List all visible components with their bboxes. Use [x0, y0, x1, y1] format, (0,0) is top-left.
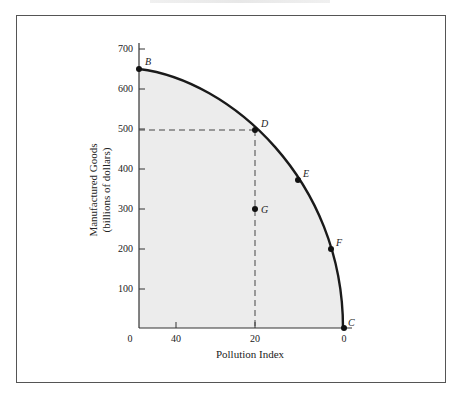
svg-text:20: 20	[250, 333, 260, 344]
y-axis-title: Manufactured Goods (billions of dollars)	[87, 143, 113, 236]
x-axis-title: Pollution Index	[216, 348, 285, 360]
point-b	[136, 66, 142, 72]
svg-text:F: F	[335, 237, 343, 248]
point-g	[252, 206, 258, 212]
svg-text:C: C	[348, 317, 355, 328]
svg-text:40: 40	[171, 333, 181, 344]
point-d	[252, 127, 258, 133]
svg-text:300: 300	[118, 203, 133, 214]
svg-text:500: 500	[118, 123, 133, 134]
svg-text:200: 200	[118, 243, 133, 254]
svg-text:100: 100	[118, 283, 133, 294]
x-tick-labels: 0 40 20 0	[128, 333, 347, 344]
svg-text:D: D	[260, 118, 269, 129]
svg-text:B: B	[145, 56, 151, 67]
svg-text:E: E	[302, 168, 309, 179]
svg-text:700: 700	[118, 43, 133, 54]
svg-text:(billions of dollars): (billions of dollars)	[100, 147, 113, 232]
svg-text:0: 0	[342, 333, 347, 344]
y-tick-labels: 700 600 500 400 300 200 100	[118, 43, 133, 294]
svg-text:G: G	[261, 204, 268, 215]
svg-text:Manufactured Goods: Manufactured Goods	[87, 143, 99, 236]
ppf-chart: 700 600 500 400 300 200 100 0 40 20 0 B …	[0, 0, 463, 397]
point-f	[328, 246, 334, 252]
feasible-region	[139, 69, 343, 328]
point-c	[341, 325, 347, 331]
svg-text:600: 600	[118, 83, 133, 94]
point-e	[295, 177, 301, 183]
svg-text:0: 0	[128, 333, 133, 344]
svg-text:400: 400	[118, 163, 133, 174]
